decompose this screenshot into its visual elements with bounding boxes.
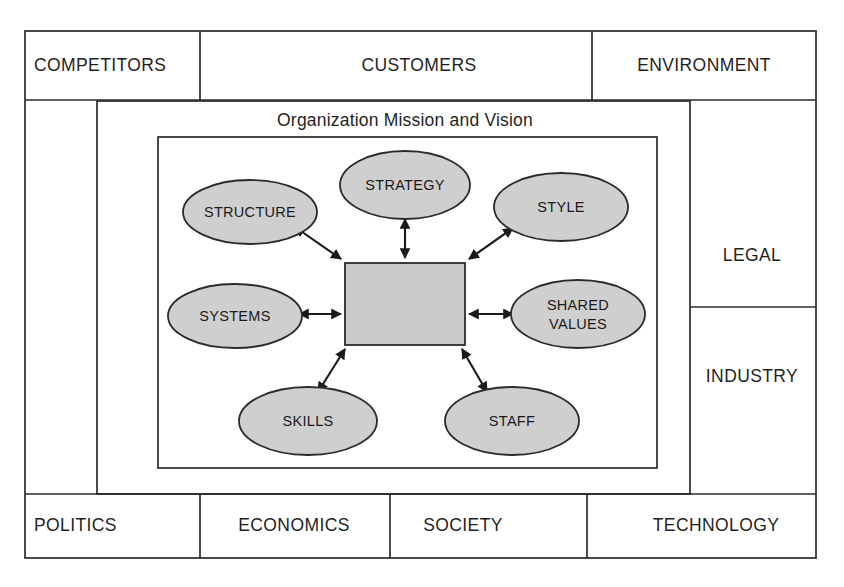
staff-label: STAFF [489, 413, 535, 429]
center-node-box [345, 263, 465, 345]
env-cell-society: SOCIETY [423, 515, 503, 535]
env-cell-legal: LEGAL [723, 245, 781, 265]
env-cell-politics: POLITICS [34, 515, 117, 535]
env-cell-industry: INDUSTRY [706, 366, 798, 386]
mckinsey-7s-diagram: STRATEGY STRUCTURE STYLE SYSTEMS SHARED … [0, 0, 844, 587]
organization-mission-vision-title: Organization Mission and Vision [277, 110, 533, 130]
structure-label: STRUCTURE [204, 204, 296, 220]
node-structure: STRUCTURE [183, 180, 317, 244]
env-cell-economics: ECONOMICS [238, 515, 350, 535]
env-cell-customers: CUSTOMERS [361, 55, 476, 75]
shared-values-label-line2: VALUES [549, 316, 607, 332]
skills-label: SKILLS [283, 413, 334, 429]
diagram-canvas: STRATEGY STRUCTURE STYLE SYSTEMS SHARED … [0, 0, 844, 587]
shared-values-label-line1: SHARED [547, 297, 609, 313]
connector-center-style [469, 228, 513, 259]
node-style: STYLE [494, 173, 628, 241]
style-label: STYLE [537, 199, 584, 215]
node-systems: SYSTEMS [168, 284, 302, 348]
env-cell-technology: TECHNOLOGY [653, 515, 780, 535]
strategy-label: STRATEGY [365, 177, 445, 193]
node-staff: STAFF [445, 387, 579, 455]
node-strategy: STRATEGY [340, 151, 470, 219]
connector-center-staff [462, 349, 487, 392]
env-cell-competitors: COMPETITORS [34, 55, 166, 75]
node-shared-values: SHARED VALUES [511, 280, 645, 348]
node-skills: SKILLS [239, 387, 377, 455]
systems-label: SYSTEMS [199, 308, 270, 324]
shared-values-ellipse [511, 280, 645, 348]
connector-center-skills [318, 349, 345, 392]
env-cell-environment: ENVIRONMENT [637, 55, 771, 75]
